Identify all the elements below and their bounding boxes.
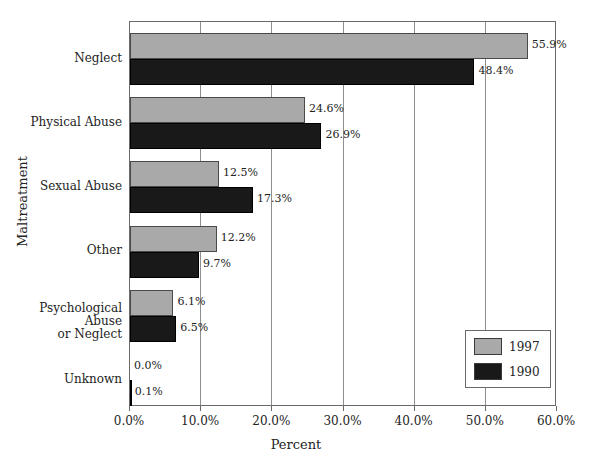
bar-value-label: 55.9%	[532, 39, 567, 50]
bar-1990-unknown	[130, 380, 132, 406]
chart-legend: 1997 1990	[465, 330, 551, 388]
y-axis-category-label: Psychological Abuse or Neglect	[0, 302, 122, 341]
legend-item-1990: 1990	[474, 363, 540, 380]
x-axis-tick	[343, 406, 344, 411]
bar-1990-other	[130, 252, 199, 278]
bar-value-label: 12.2%	[221, 232, 256, 243]
x-axis-tick-label: 50.0%	[445, 414, 525, 428]
legend-label-1990: 1990	[509, 365, 540, 379]
bar-value-label: 17.3%	[257, 193, 292, 204]
y-axis-category-label: Unknown	[0, 373, 122, 386]
legend-label-1997: 1997	[509, 340, 540, 354]
bar-value-label: 24.6%	[309, 103, 344, 114]
bar-1997-other	[130, 226, 217, 252]
legend-swatch-1997	[474, 338, 502, 355]
bar-value-label: 9.7%	[203, 258, 231, 269]
bar-value-label: 0.0%	[134, 360, 162, 371]
bar-value-label: 0.1%	[135, 386, 163, 397]
y-axis-title: Maltreatment	[15, 132, 30, 272]
legend-swatch-1990	[474, 363, 502, 380]
bar-value-label: 6.5%	[180, 322, 208, 333]
y-axis-category-label: Physical Abuse	[0, 116, 122, 129]
bar-1997-psychological-abuse-or-neglect	[130, 290, 173, 316]
x-axis-tick-label: 10.0%	[160, 414, 240, 428]
bar-value-label: 26.9%	[325, 129, 360, 140]
x-axis-tick-label: 60.0%	[516, 414, 592, 428]
x-axis-tick-label: 30.0%	[303, 414, 383, 428]
x-axis-tick	[271, 406, 272, 411]
bar-1990-neglect	[130, 59, 474, 85]
bar-value-label: 48.4%	[478, 65, 513, 76]
x-axis-tick-label: 20.0%	[231, 414, 311, 428]
x-axis-tick-label: 0.0%	[89, 414, 169, 428]
bar-1990-psychological-abuse-or-neglect	[130, 316, 176, 342]
bar-1990-physical-abuse	[130, 123, 321, 149]
bar-1997-physical-abuse	[130, 97, 305, 123]
x-axis-tick	[414, 406, 415, 411]
x-axis-tick	[200, 406, 201, 411]
legend-item-1997: 1997	[474, 338, 540, 355]
bar-value-label: 12.5%	[223, 167, 258, 178]
x-axis-tick	[485, 406, 486, 411]
bar-1997-neglect	[130, 33, 528, 59]
bar-1990-sexual-abuse	[130, 187, 253, 213]
x-axis-title: Percent	[0, 437, 592, 452]
bar-value-label: 6.1%	[177, 296, 205, 307]
x-axis-tick-label: 40.0%	[374, 414, 454, 428]
y-axis-category-label: Neglect	[0, 52, 122, 65]
bar-chart: 0.0%10.0%20.0%30.0%40.0%50.0%60.0%55.9%4…	[0, 0, 592, 467]
x-axis-tick	[129, 406, 130, 411]
bar-1997-sexual-abuse	[130, 161, 219, 187]
x-axis-tick	[556, 406, 557, 411]
